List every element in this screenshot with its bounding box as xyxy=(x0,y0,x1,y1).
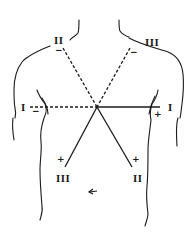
lead-iii-negative-sign: − xyxy=(130,47,138,57)
lead-ii-positive-label: II xyxy=(133,174,142,184)
lead-ii-negative-dashed xyxy=(63,48,97,107)
lead-lines xyxy=(30,48,160,167)
lead-ii-positive-sign: + xyxy=(132,154,140,164)
lead-i-negative-label: I xyxy=(21,103,26,113)
arrow-icon xyxy=(89,189,97,194)
lead-i-negative-sign: − xyxy=(32,106,40,116)
neck-right xyxy=(119,20,129,37)
arm-left-lower xyxy=(13,118,14,140)
diagram-svg: I − + I II − + II III − + III xyxy=(0,0,195,236)
lead-ii-negative-sign: − xyxy=(55,45,63,55)
arm-right-lower xyxy=(176,118,178,146)
torso-outline xyxy=(13,20,184,226)
lead-axes-diagram: I − + I II − + II III − + III xyxy=(0,0,195,236)
neck-left xyxy=(70,20,79,40)
lead-ii-positive-solid xyxy=(97,107,132,167)
lead-iii-positive-label: III xyxy=(56,174,70,184)
lead-i-positive-label: I xyxy=(168,103,173,113)
armpit-left xyxy=(42,98,48,114)
lead-iii-negative-dashed xyxy=(97,48,130,107)
lead-iii-positive-sign: + xyxy=(57,154,65,164)
lead-i-positive-sign: + xyxy=(154,109,162,119)
lead-iii-positive-solid xyxy=(65,107,97,167)
lead-iii-negative-label: III xyxy=(145,38,159,48)
